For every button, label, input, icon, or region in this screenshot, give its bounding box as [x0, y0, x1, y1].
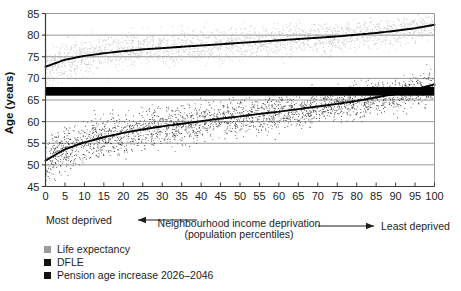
- y-tick-label: 50: [27, 159, 39, 171]
- legend-label-dfle: DFLE: [57, 256, 84, 268]
- chart-figure: 455055606570758085 051015202530354045505…: [0, 0, 461, 291]
- x-tick-label: 100: [425, 190, 443, 202]
- x-tick-label: 10: [78, 190, 90, 202]
- legend-swatch-life-expectancy: [44, 246, 51, 253]
- x-tick-label: 5: [62, 190, 68, 202]
- x-tick-label: 20: [117, 190, 129, 202]
- x-tick-label: 25: [137, 190, 149, 202]
- x-tick-label: 70: [312, 190, 324, 202]
- x-tick-label: 30: [156, 190, 168, 202]
- x-tick-label: 45: [214, 190, 226, 202]
- x-tick-label: 90: [389, 190, 401, 202]
- x-tick-label: 80: [351, 190, 363, 202]
- y-axis-ticks: 455055606570758085: [27, 8, 45, 193]
- y-tick-label: 60: [27, 116, 39, 128]
- x-tick-label: 15: [98, 190, 110, 202]
- x-tick-label: 50: [234, 190, 246, 202]
- y-tick-label: 45: [27, 181, 39, 193]
- x-tick-label: 95: [409, 190, 421, 202]
- legend-label-pension-age: Pension age increase 2026–2046: [57, 269, 214, 281]
- y-tick-label: 65: [27, 94, 39, 106]
- x-tick-label: 75: [331, 190, 343, 202]
- x-tick-label: 65: [292, 190, 304, 202]
- y-tick-label: 85: [27, 8, 39, 20]
- x-tick-label: 35: [176, 190, 188, 202]
- x-tick-label: 60: [273, 190, 285, 202]
- x-tick-label: 55: [253, 190, 265, 202]
- y-tick-label: 55: [27, 137, 39, 149]
- legend-swatch-dfle: [44, 259, 51, 266]
- most-deprived-label: Most deprived: [46, 214, 112, 226]
- pension-age-band: [46, 87, 435, 96]
- x-tick-label: 85: [370, 190, 382, 202]
- life-expectancy-dfle-scatter-chart: 455055606570758085 051015202530354045505…: [0, 0, 461, 291]
- least-deprived-label: Least deprived: [381, 220, 450, 232]
- legend-label-life-expectancy: Life expectancy: [57, 243, 131, 255]
- y-tick-label: 70: [27, 72, 39, 84]
- legend-swatch-pension-age: [44, 272, 51, 279]
- y-tick-label: 75: [27, 51, 39, 63]
- x-axis-title-line2: (population percentiles): [184, 228, 293, 240]
- x-tick-label: 0: [42, 190, 48, 202]
- x-tick-label: 40: [195, 190, 207, 202]
- y-tick-label: 80: [27, 29, 39, 41]
- y-axis-title: Age (years): [3, 72, 15, 135]
